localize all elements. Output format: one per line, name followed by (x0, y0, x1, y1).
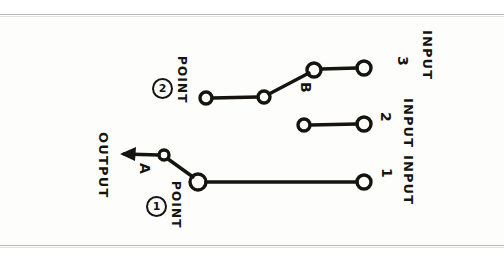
scanned-page: INPUT 3 INPUT 2 INPUT 1 POINT 2 POINT 1 … (0, 0, 504, 260)
point-1-terminal (190, 174, 206, 190)
point-2-terminal (200, 92, 212, 104)
point-1-label: POINT (170, 181, 182, 229)
input-3-terminal (357, 61, 371, 75)
input-2-terminal (357, 117, 371, 131)
input-1-terminal (357, 175, 371, 189)
input-2-label: INPUT (402, 98, 415, 148)
contact-a-terminal (159, 150, 169, 160)
input-1-label: INPUT (402, 155, 415, 205)
wire-contact-b-to-input-3 (321, 68, 357, 69)
pivot-2-terminal (258, 91, 270, 103)
input-1-number: 1 (380, 168, 394, 178)
wire-input-2-segment (310, 124, 357, 125)
point-1-badge: 1 (146, 196, 167, 217)
contact-b-terminal (307, 63, 321, 77)
input-3-number: 3 (396, 56, 410, 66)
input-2-number: 2 (379, 112, 393, 122)
wire-contact-a-to-point-1 (168, 159, 193, 177)
point-2-label: POINT (176, 56, 188, 104)
output-arrow-head (120, 147, 136, 161)
contact-b-label: B (299, 82, 313, 93)
point-2-badge: 2 (152, 78, 173, 99)
contact-a-label: A (138, 163, 152, 174)
output-label: OUTPUT (97, 132, 110, 199)
input-2-left-terminal (298, 119, 310, 131)
input-3-label: INPUT (421, 30, 434, 80)
wire-point-2-to-pivot (212, 97, 258, 98)
